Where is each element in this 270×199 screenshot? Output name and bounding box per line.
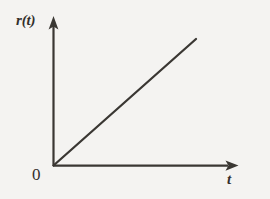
series-line-rt: [54, 39, 197, 166]
plot-canvas: [0, 0, 270, 199]
y-axis-label: r(t): [16, 13, 35, 28]
origin-label: 0: [32, 166, 41, 183]
figure-root: r(t) t 0: [0, 0, 270, 199]
x-axis-label: t: [227, 172, 231, 187]
